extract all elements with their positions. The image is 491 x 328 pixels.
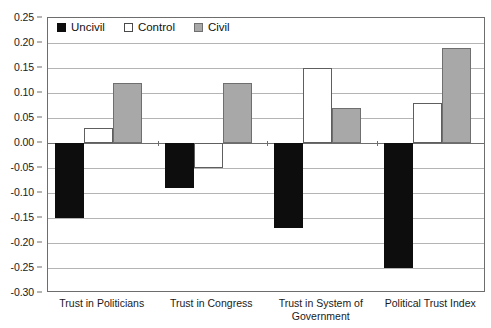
y-axis-tick-label: -0.10 — [11, 186, 34, 198]
legend-item-civil[interactable]: Civil — [194, 21, 230, 33]
x-axis-category-tick — [377, 141, 378, 146]
y-axis-tick-mark — [37, 267, 42, 268]
chart-legend: UncivilControlCivil — [57, 21, 230, 33]
legend-label: Uncivil — [71, 21, 105, 33]
y-axis-tick-label: -0.20 — [11, 236, 34, 248]
legend-label: Control — [138, 21, 175, 33]
x-axis-category-label: Trust in Congress — [157, 297, 267, 310]
plot-area — [47, 17, 485, 292]
bar-control-cat3 — [413, 103, 442, 143]
bar-civil-cat1 — [223, 83, 252, 143]
y-axis-tick-mark — [37, 17, 42, 18]
bar-civil-cat2 — [332, 108, 361, 143]
x-axis-category-label: Political Trust Index — [376, 297, 486, 310]
x-axis-category-label: Trust in Politicians — [47, 297, 157, 310]
y-axis-tick-label: 0.25 — [14, 11, 34, 23]
white-outlined-square-icon — [124, 23, 133, 32]
x-axis-category-label: Trust in System of Government — [266, 297, 376, 323]
x-axis-category-tick — [158, 141, 159, 146]
y-axis-tick-mark — [37, 92, 42, 93]
bar-uncivil-cat2 — [274, 143, 303, 228]
y-axis-tick-label: -0.25 — [11, 261, 34, 273]
bar-uncivil-cat3 — [384, 143, 413, 268]
bar-control-cat0 — [84, 128, 113, 143]
y-axis-tick-mark — [37, 217, 42, 218]
y-axis-tick-label: 0.10 — [14, 86, 34, 98]
y-axis-tick-label: 0.05 — [14, 111, 34, 123]
y-axis-tick-label: 0.00 — [14, 136, 34, 148]
y-axis-tick-mark — [37, 192, 42, 193]
legend-label: Civil — [208, 21, 230, 33]
y-axis-tick-mark — [37, 67, 42, 68]
y-axis: 0.250.200.150.100.050.00-0.05-0.10-0.15-… — [0, 0, 43, 328]
bar-civil-cat3 — [442, 48, 471, 143]
bars-layer — [48, 18, 484, 291]
bar-control-cat1 — [194, 143, 223, 168]
y-axis-tick-mark — [37, 167, 42, 168]
legend-item-uncivil[interactable]: Uncivil — [57, 21, 105, 33]
bar-uncivil-cat0 — [55, 143, 84, 218]
y-axis-tick-label: 0.15 — [14, 61, 34, 73]
y-axis-tick-label: -0.05 — [11, 161, 34, 173]
y-axis-tick-mark — [37, 117, 42, 118]
y-axis-tick-mark — [37, 242, 42, 243]
x-axis: Trust in PoliticiansTrust in CongressTru… — [47, 297, 485, 328]
black-filled-square-icon — [57, 23, 66, 32]
y-axis-tick-label: -0.30 — [11, 286, 34, 298]
y-axis-tick-mark — [37, 42, 42, 43]
bar-control-cat2 — [303, 68, 332, 143]
bar-civil-cat0 — [113, 83, 142, 143]
grouped-bar-chart: 0.250.200.150.100.050.00-0.05-0.10-0.15-… — [0, 0, 491, 328]
x-axis-category-tick — [267, 141, 268, 146]
y-axis-tick-label: -0.15 — [11, 211, 34, 223]
y-axis-tick-mark — [37, 292, 42, 293]
bar-uncivil-cat1 — [165, 143, 194, 188]
gray-filled-square-icon — [194, 23, 203, 32]
y-axis-tick-label: 0.20 — [14, 36, 34, 48]
y-axis-tick-mark — [37, 142, 42, 143]
legend-item-control[interactable]: Control — [124, 21, 175, 33]
